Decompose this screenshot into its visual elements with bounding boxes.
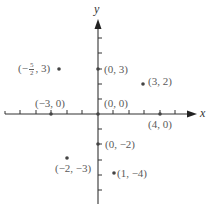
label-prefix: (− [18, 62, 28, 74]
x-axis-label: x [200, 107, 205, 119]
point-3-2 [141, 82, 145, 86]
label-suffix: , 3) [35, 62, 50, 74]
y-axis-label: y [94, 3, 99, 15]
point-label-neg3-0: (−3, 0) [35, 98, 65, 109]
point-label-neg-5-2-3: (−52, 3) [18, 62, 50, 77]
plotted-points [49, 67, 162, 175]
point-label-0-0: (0, 0) [104, 98, 128, 109]
point-1-neg4 [112, 171, 116, 175]
fraction: 52 [29, 62, 35, 77]
point-label-4-0: (4, 0) [148, 119, 172, 130]
point-neg-5-2-3 [57, 67, 61, 71]
point-0-0 [96, 112, 100, 116]
x-axis-ticks [5, 110, 175, 114]
point-0-neg2 [96, 142, 100, 146]
y-axis-arrow-icon [95, 19, 102, 29]
point-4-0 [158, 112, 162, 116]
point-label-0-3: (0, 3) [104, 64, 128, 75]
point-label-1-neg4: (1, −4) [117, 168, 147, 179]
point-label-0-neg2: (0, −2) [105, 139, 135, 150]
point-label-neg2-neg3: (−2, −3) [55, 163, 91, 174]
fraction-denominator: 2 [29, 70, 35, 77]
point-0-3 [96, 67, 100, 71]
point-label-3-2: (3, 2) [148, 76, 172, 87]
point-neg3-0 [49, 112, 53, 116]
point-neg2-neg3 [65, 156, 69, 160]
x-axis-arrow-icon [187, 111, 197, 118]
